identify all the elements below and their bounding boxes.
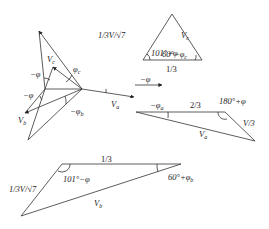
phasor-vectors — [25, 31, 134, 140]
angle-arc-101-minus-phi — [58, 164, 70, 172]
triangle-a-angle-right: 180°+φ — [219, 96, 246, 106]
label-neg-phi-b: −φb — [70, 106, 83, 117]
triangle-b-left-side: 1/3V/√7 — [9, 184, 37, 194]
triangle-a-angle-left: −φa — [150, 100, 163, 111]
label-vc: Vc — [47, 54, 55, 65]
vector-vertical — [39, 31, 45, 89]
triangle-c-right-side: Vc — [181, 30, 189, 41]
triangle-b-top-side: 1/3 — [101, 154, 112, 164]
triangle-a-top-side: 2/3 — [190, 100, 201, 110]
triangle-c-bottom-side: 1/3 — [166, 64, 177, 74]
triangle-b-angle-left: 101°−φ — [63, 174, 90, 184]
angle-arc-neg-phi-b — [65, 96, 66, 104]
vector-top-left — [39, 31, 82, 89]
triangle-b-angle-right: 60°+φb — [168, 172, 193, 183]
label-vb: Vb — [18, 115, 26, 126]
triangle-b-bottom-side: Vb — [94, 198, 102, 209]
angle-arc-101-plus-phi — [147, 54, 150, 60]
triangle-a — [136, 112, 255, 141]
triangle-c-angle-right: 60°−φc — [162, 49, 187, 60]
label-phi-c: φc — [73, 64, 81, 75]
label-neg-phi-top: −φ — [30, 69, 41, 79]
label-neg-phi-left: −φ — [23, 90, 34, 100]
angle-arc-60-minus-phic — [195, 55, 196, 60]
phasor-diagram-figure: Vc φc −φ −φ −φ Va Vb −φb 1/3V/√7 Vc 1/3 … — [0, 0, 269, 229]
triangle-a-bottom-side: Va — [199, 129, 207, 140]
triangle-c-left-side: 1/3V/√7 — [98, 30, 126, 40]
vector-va — [82, 89, 134, 97]
label-va: Va — [111, 99, 119, 110]
angle-arc-60-plus-phib — [157, 164, 158, 172]
triangle-a-right-side: V/3 — [243, 118, 255, 128]
label-neg-phi-right: −φ — [140, 74, 151, 84]
